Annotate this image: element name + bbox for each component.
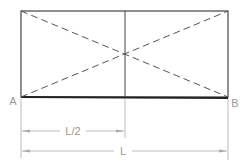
- base-line-ab: [21, 97, 228, 98]
- arrow-right-icon: [116, 130, 124, 133]
- arrow-left-icon: [22, 130, 30, 133]
- dimension-full-label: L: [120, 145, 126, 157]
- point-b-label: B: [231, 97, 238, 109]
- arrow-left-icon: [22, 150, 30, 153]
- dimension-half-label: L/2: [65, 125, 80, 137]
- arrow-right-icon: [219, 150, 227, 153]
- point-a-label: A: [9, 95, 17, 107]
- beam-diagram: L/2 L A B: [0, 0, 244, 167]
